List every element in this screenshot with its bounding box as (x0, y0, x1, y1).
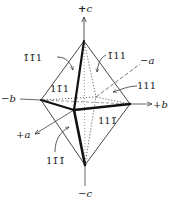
label-plus-c: +c (78, 3, 92, 14)
face-label-1-bar1-bar1: 11̄1̄ (46, 155, 65, 166)
face-label-bar1-bar1-1: 1̄1̄1 (23, 52, 42, 63)
face-label-1-1-1: 111 (137, 80, 156, 91)
octahedron-diagram: +c −c −b +b +a −a 1̄1̄1 1̄11 11̄1 111 11… (0, 0, 174, 200)
label-plus-b: +b (153, 99, 168, 110)
a-axis-negative (96, 64, 140, 97)
face-label-1-bar1-1: 11̄1 (50, 83, 69, 94)
b-axis-negative (20, 99, 41, 100)
a-axis-positive (35, 110, 74, 134)
face-label-bar1-1-1: 1̄11 (107, 50, 126, 61)
label-minus-b: −b (1, 93, 16, 104)
label-minus-a: −a (140, 55, 154, 66)
c-axis-inner (84, 41, 85, 165)
label-plus-a: +a (16, 129, 30, 140)
face-label-1-1-bar1: 111̄ (98, 115, 117, 126)
label-minus-c: −c (78, 188, 92, 199)
